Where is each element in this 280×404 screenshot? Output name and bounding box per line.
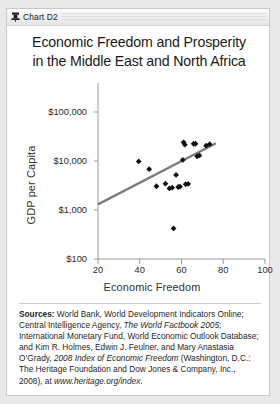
sources-italic-2: 2008 Index of Economic Freedom bbox=[54, 353, 179, 363]
sources-text-4: . bbox=[140, 376, 142, 386]
chart-titlebar: Chart D2 bbox=[7, 9, 269, 26]
scatter-point bbox=[146, 166, 152, 172]
scatter-point bbox=[136, 159, 142, 165]
sources-heading: Sources: bbox=[19, 309, 55, 319]
chart-titlebar-label: Chart D2 bbox=[23, 12, 58, 22]
x-tick-label: 20 bbox=[93, 265, 103, 275]
chart-card: Chart D2 Economic Freedom and Prosperity… bbox=[6, 8, 270, 396]
trendline-segment bbox=[98, 143, 216, 204]
chart-thumbtack-icon bbox=[11, 12, 20, 22]
scatter-point bbox=[171, 226, 177, 232]
x-tick-label: 100 bbox=[257, 265, 273, 275]
x-axis-title: Economic Freedom bbox=[37, 281, 267, 293]
x-tick-label: 40 bbox=[135, 265, 145, 275]
y-tick-label: $100 bbox=[31, 254, 87, 264]
sources-note: Sources: World Bank, World Development I… bbox=[19, 309, 261, 387]
scatter-point bbox=[154, 183, 160, 189]
y-tick-label: $1,000 bbox=[31, 205, 87, 215]
x-axis-tick-labels: 20 40 60 80 100 bbox=[7, 265, 271, 281]
y-tick-label: $100,000 bbox=[31, 107, 87, 117]
screenshot-root: Chart D2 Economic Freedom and Prosperity… bbox=[0, 0, 280, 404]
y-axis-ticks bbox=[94, 112, 98, 259]
y-axis-tick-labels: $100,000 $10,000 $1,000 $100 bbox=[31, 75, 87, 265]
sources-url[interactable]: www.heritage.org/index bbox=[54, 376, 140, 386]
x-tick-label: 80 bbox=[218, 265, 228, 275]
chart-heading: Economic Freedom and Prosperity in the M… bbox=[17, 33, 261, 71]
x-tick-label: 60 bbox=[176, 265, 186, 275]
scatter-point bbox=[173, 172, 179, 178]
plot-area: $100,000 $10,000 $1,000 $100 20 40 60 80… bbox=[7, 75, 271, 300]
chart-heading-line-2: in the Middle East and North Africa bbox=[17, 52, 261, 71]
x-axis-ticks bbox=[98, 259, 265, 264]
y-axis-title: GDP per Capita bbox=[25, 115, 37, 255]
scatter-point bbox=[163, 181, 169, 187]
chart-heading-line-1: Economic Freedom and Prosperity bbox=[17, 33, 261, 52]
titlebar-decoration bbox=[62, 13, 266, 22]
scatter-points bbox=[136, 139, 213, 231]
trendline bbox=[98, 143, 216, 204]
axis-lines bbox=[98, 83, 265, 259]
sources-divider bbox=[19, 303, 261, 304]
y-tick-label: $10,000 bbox=[31, 156, 87, 166]
sources-italic-1: The World Factbook 2005 bbox=[124, 320, 219, 330]
